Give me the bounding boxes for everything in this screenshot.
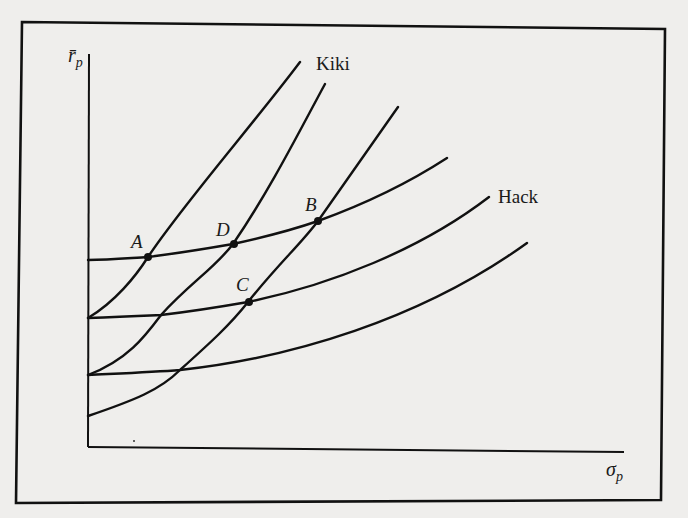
hack-curves: [88, 158, 527, 375]
point-a-marker: [144, 253, 152, 261]
point-c-marker: [245, 298, 253, 306]
point-d-label: D: [215, 219, 230, 240]
figure-frame: [16, 22, 665, 503]
kiki-curve-3: [88, 107, 398, 416]
hack-curve-3: [88, 243, 527, 375]
y-axis-label: r̄p: [68, 44, 83, 70]
kiki-label: Kiki: [316, 53, 350, 74]
x-axis: [88, 447, 624, 452]
page: r̄p σp A D B C Kiki Hack: [0, 0, 688, 518]
indifference-curve-figure: r̄p σp A D B C Kiki Hack: [0, 0, 688, 518]
point-b-marker: [314, 217, 322, 225]
intersection-points: [144, 217, 322, 306]
scan-speck: [133, 440, 135, 442]
point-c-label: C: [236, 274, 249, 295]
hack-label: Hack: [498, 186, 539, 207]
point-d-marker: [230, 240, 238, 248]
x-axis-label: σp: [606, 458, 623, 484]
point-a-label: A: [129, 231, 143, 252]
point-b-label: B: [305, 194, 317, 215]
y-axis: [88, 54, 89, 447]
